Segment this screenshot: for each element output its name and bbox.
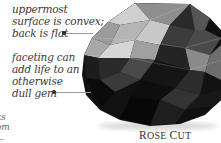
annotation-line: uppermost [12,3,104,15]
annotation-line: dull gem [12,87,79,99]
annotation-line: otherwise [12,75,79,87]
annotation-faceting: faceting can add life to an otherwise du… [12,51,79,99]
annotation-line: ... [0,132,10,142]
annotation-line: faceting can [12,51,79,63]
annotation-line: ks [0,112,10,122]
caption-rose-cut: ROSE CUT [139,129,192,141]
annotation-cut-off: ks om ... [0,112,10,142]
annotation-line: om [0,122,10,132]
annotation-line: surface is convex; [12,15,104,27]
annotation-line: add life to an [12,63,79,75]
caption-rest: OSE [147,130,167,141]
caption-initial: C [170,129,178,141]
caption-initial: R [139,129,147,141]
caption-rest: UT [178,130,192,141]
annotation-line: back is flat [12,27,104,39]
annotation-convex-surface: uppermost surface is convex; back is fla… [12,3,104,39]
